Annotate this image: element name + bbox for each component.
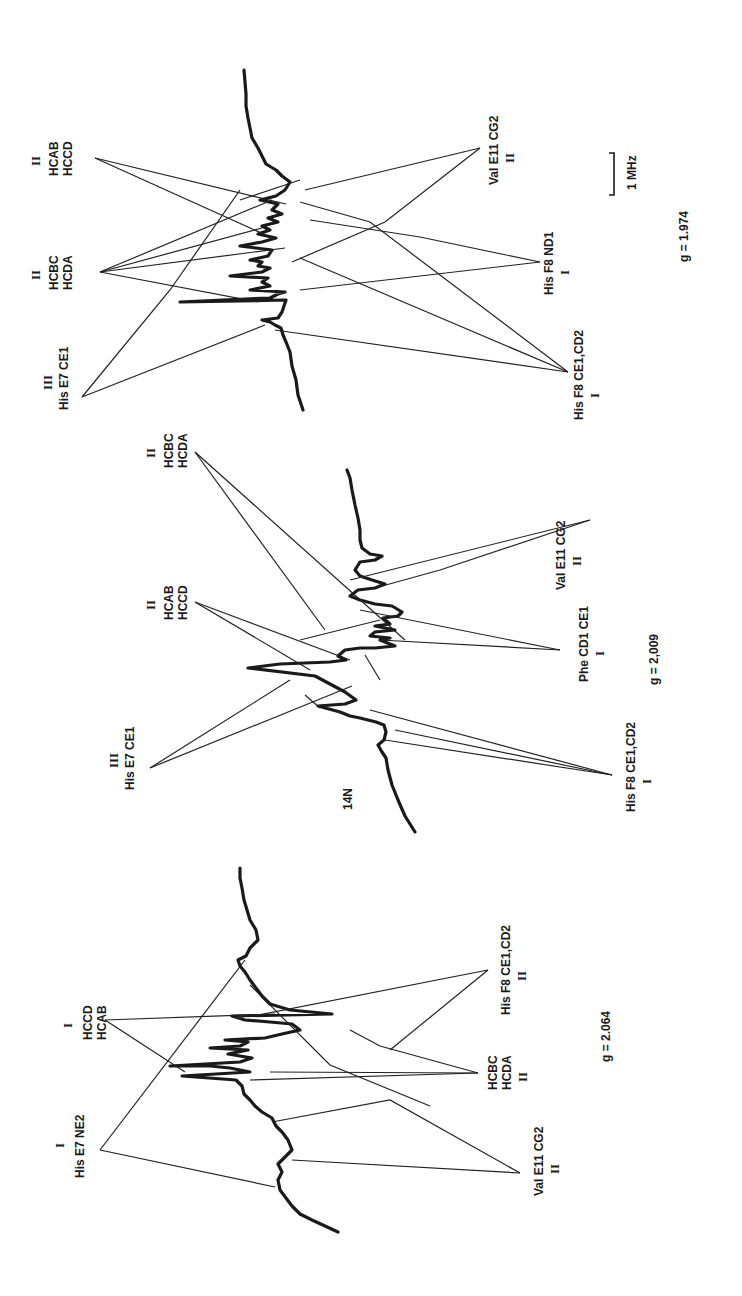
svg-text:II: II: [514, 971, 529, 981]
label-his-f8-ce1-cd2-top: His F8 CE1,CD2 I: [572, 330, 602, 420]
svg-text:I: I: [52, 1143, 67, 1148]
spectrum-trace-middle: [248, 470, 415, 832]
svg-text:II: II: [515, 1072, 530, 1082]
svg-text:Val E11 CG2: Val E11 CG2: [532, 1126, 546, 1196]
svg-text:HCBC: HCBC: [162, 433, 176, 468]
svg-text:I: I: [592, 651, 607, 656]
svg-text:1 MHz: 1 MHz: [625, 155, 639, 190]
svg-text:HCCD: HCCD: [61, 141, 75, 176]
label-hccd-hcab-bottom: I HCCD HCAB: [60, 1005, 109, 1040]
spectrum-trace-top: [180, 70, 303, 410]
svg-text:His F8 CE1,CD2: His F8 CE1,CD2: [499, 925, 513, 1015]
svg-text:II: II: [547, 1164, 562, 1174]
svg-text:HCCD: HCCD: [176, 585, 190, 620]
g-value-middle: g = 2,009: [647, 634, 661, 685]
label-hcbc-hcda-middle: II HCBC HCDA: [143, 433, 190, 468]
label-val-e11-cg2-middle: Val E11 CG2 II: [554, 520, 584, 590]
svg-text:II: II: [28, 156, 43, 166]
svg-text:HCDA: HCDA: [500, 1055, 514, 1090]
panel-bottom: I His E7 NE2 I HCCD HCAB Val E11 CG2 II …: [52, 868, 613, 1232]
svg-text:I: I: [639, 779, 654, 784]
label-val-e11-cg2-bottom: Val E11 CG2 II: [532, 1126, 562, 1196]
svg-text:g = 2.064: g = 2.064: [599, 1011, 613, 1062]
label-his-e7-ce1-top: III His E7 CE1: [40, 346, 71, 410]
endor-figure: III His E7 CE1 II HCBC HCDA II HCAB HCCD…: [0, 0, 742, 1296]
svg-text:His E7 CE1: His E7 CE1: [57, 346, 71, 410]
svg-text:Phe CD1 CE1: Phe CD1 CE1: [577, 606, 591, 682]
svg-text:His F8 ND1: His F8 ND1: [542, 231, 556, 295]
svg-text:II: II: [28, 270, 43, 280]
svg-text:II: II: [502, 153, 517, 163]
svg-text:I: I: [557, 270, 572, 275]
svg-text:14N: 14N: [341, 788, 355, 810]
panel-top: III His E7 CE1 II HCBC HCDA II HCAB HCCD…: [28, 70, 691, 420]
svg-text:III: III: [106, 753, 121, 768]
svg-text:HCAB: HCAB: [47, 141, 61, 176]
svg-text:HCDA: HCDA: [176, 433, 190, 468]
label-phe-cd1-ce1-middle: Phe CD1 CE1 I: [577, 606, 607, 682]
svg-text:HCAB: HCAB: [95, 1005, 109, 1040]
svg-text:His F8 CE1,CD2: His F8 CE1,CD2: [624, 722, 638, 812]
svg-text:g = 1.974: g = 1.974: [677, 211, 691, 262]
label-his-e7-ce1-middle: III His E7 CE1: [106, 726, 137, 790]
svg-text:HCBC: HCBC: [47, 255, 61, 290]
svg-text:III: III: [40, 375, 55, 390]
svg-text:II: II: [143, 448, 158, 458]
panel-middle: III His E7 CE1 II HCAB HCCD II HCBC HCDA…: [106, 433, 661, 832]
label-hcab-hccd-middle: II HCAB HCCD: [143, 585, 190, 620]
spectrum-trace-bottom: [170, 868, 338, 1232]
label-his-e7-ne2-bottom: I His E7 NE2: [52, 1114, 87, 1178]
svg-text:HCBC: HCBC: [486, 1055, 500, 1090]
svg-text:Val E11 CG2: Val E11 CG2: [554, 520, 568, 590]
g-value-bottom: g = 2.064: [599, 1011, 613, 1062]
g-value-top: g = 1.974: [677, 211, 691, 262]
svg-text:HCCD: HCCD: [81, 1005, 95, 1040]
svg-text:II: II: [143, 600, 158, 610]
assignment-lines-bottom: [100, 960, 520, 1187]
svg-text:I: I: [60, 1023, 75, 1028]
svg-text:II: II: [569, 556, 584, 566]
assignment-lines-middle: [150, 452, 612, 775]
svg-text:Val E11 CG2: Val E11 CG2: [487, 115, 501, 185]
svg-text:His F8 CE1,CD2: His F8 CE1,CD2: [572, 330, 586, 420]
scale-bar: 1 MHz: [609, 153, 639, 195]
svg-text:HCDA: HCDA: [61, 255, 75, 290]
label-his-f8-nd1-top: His F8 ND1 I: [542, 231, 572, 295]
label-hcab-hccd-top: II HCAB HCCD: [28, 141, 75, 176]
svg-text:His E7 NE2: His E7 NE2: [73, 1114, 87, 1178]
label-his-f8-ce1-cd2-bottom: His F8 CE1,CD2 II: [499, 925, 529, 1015]
label-val-e11-cg2-top: Val E11 CG2 II: [487, 115, 517, 185]
svg-text:HCAB: HCAB: [162, 585, 176, 620]
svg-text:I: I: [587, 393, 602, 398]
label-hcbc-hcda-bottom: HCBC HCDA II: [486, 1055, 530, 1090]
label-his-f8-ce1-cd2-middle: His F8 CE1,CD2 I: [624, 722, 654, 812]
svg-text:g = 2,009: g = 2,009: [647, 634, 661, 685]
nucleus-label-14n: 14N: [341, 788, 355, 810]
label-hcbc-hcda-top: II HCBC HCDA: [28, 255, 75, 290]
svg-text:His E7 CE1: His E7 CE1: [123, 726, 137, 790]
